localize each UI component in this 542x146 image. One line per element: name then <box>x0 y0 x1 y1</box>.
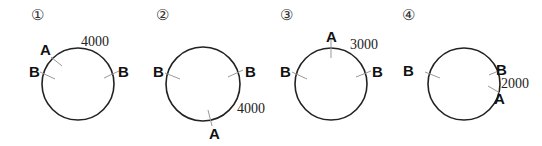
point-b-label: B <box>403 62 414 79</box>
point-b-label: B <box>280 63 291 80</box>
point-b-tick <box>425 72 440 78</box>
circles-diagram: A B B 4000 B B A 4000 A B B 3000 B B <box>0 0 542 146</box>
track-circle <box>295 48 367 120</box>
distance-label: 4000 <box>237 101 265 116</box>
distance-label: 3000 <box>350 37 378 52</box>
panel-4: B B A 2000 <box>403 48 529 120</box>
point-a-label: A <box>40 41 51 58</box>
panel-2: B B A 4000 <box>153 47 265 142</box>
track-circle <box>428 48 500 120</box>
point-a-label: A <box>209 125 220 142</box>
point-b-tick <box>228 70 243 77</box>
point-a-tick <box>208 110 212 126</box>
distance-label: 4000 <box>81 34 109 49</box>
point-b-tick <box>356 71 371 77</box>
point-a-tick <box>51 57 62 66</box>
point-a-label: A <box>494 90 505 107</box>
point-b-label: B <box>245 63 256 80</box>
distance-label: 2000 <box>501 76 529 91</box>
point-b-tick <box>292 72 307 79</box>
point-b-label: B <box>372 63 383 80</box>
point-b-label: B <box>118 63 129 80</box>
point-b-label: B <box>153 63 164 80</box>
point-a-label: A <box>326 28 337 45</box>
panel-3: A B B 3000 <box>280 28 383 120</box>
point-b-label: B <box>29 63 40 80</box>
panel-1: A B B 4000 <box>29 34 129 120</box>
track-circle <box>166 47 240 121</box>
